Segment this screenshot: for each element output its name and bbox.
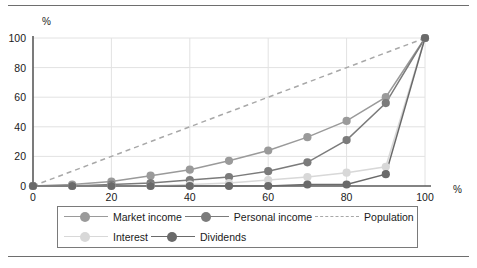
legend-swatch-dividends — [151, 231, 195, 243]
legend-label-personal-income: Personal income — [229, 211, 315, 223]
data-point-dividends — [225, 182, 233, 190]
data-point-dividends — [382, 170, 390, 178]
data-point-interest — [343, 169, 351, 177]
legend-swatch-interest — [64, 231, 108, 243]
legend-row-2: Interest Dividends — [58, 227, 417, 247]
y-tick-label: 20 — [14, 150, 26, 162]
y-tick-label: 40 — [14, 121, 26, 133]
x-tick-label: 0 — [30, 191, 36, 203]
x-tick-label: 40 — [184, 191, 196, 203]
x-tick-label: 100 — [416, 191, 434, 203]
data-point-dividends — [303, 180, 311, 188]
data-point-dividends — [264, 182, 272, 190]
legend-item-interest[interactable]: Interest — [64, 231, 151, 243]
y-tick-label: 80 — [14, 62, 26, 74]
y-axis-unit-label: % — [42, 16, 51, 27]
x-axis-unit-label: % — [453, 184, 462, 195]
data-point-dividends — [29, 182, 37, 190]
legend-item-market-income[interactable]: Market income — [64, 211, 185, 223]
x-tick-label: 20 — [106, 191, 118, 203]
data-point-dividends — [186, 182, 194, 190]
lorenz-curve-figure: 100806040200020406080100 % % Market inco… — [0, 0, 477, 268]
legend-swatch-market-income — [64, 211, 108, 223]
data-point-personal-income — [264, 167, 272, 175]
data-point-dividends — [421, 34, 429, 42]
data-point-dividends — [343, 180, 351, 188]
y-tick-label: 60 — [14, 91, 26, 103]
x-tick-label: 80 — [341, 191, 353, 203]
data-point-personal-income — [303, 158, 311, 166]
data-point-market-income — [225, 157, 233, 165]
data-point-personal-income — [382, 99, 390, 107]
data-point-market-income — [147, 172, 155, 180]
data-point-market-income — [186, 166, 194, 174]
data-point-personal-income — [343, 136, 351, 144]
legend-item-personal-income[interactable]: Personal income — [185, 211, 315, 223]
legend-label-interest: Interest — [108, 231, 151, 243]
legend-swatch-population — [315, 211, 359, 223]
data-point-dividends — [107, 182, 115, 190]
data-point-market-income — [303, 133, 311, 141]
data-point-interest — [382, 163, 390, 171]
legend-label-market-income: Market income — [108, 211, 185, 223]
legend-item-population[interactable]: Population — [315, 211, 417, 223]
y-tick-label: 100 — [8, 32, 26, 44]
chart-legend: Market income Personal income Population — [57, 206, 418, 248]
data-point-dividends — [147, 182, 155, 190]
legend-label-population: Population — [359, 211, 417, 223]
legend-label-dividends: Dividends — [195, 231, 249, 243]
data-point-market-income — [264, 146, 272, 154]
legend-item-dividends[interactable]: Dividends — [151, 231, 249, 243]
x-tick-label: 60 — [262, 191, 274, 203]
data-point-dividends — [68, 182, 76, 190]
legend-row-1: Market income Personal income Population — [58, 207, 417, 227]
y-tick-label: 0 — [20, 180, 26, 192]
data-point-market-income — [343, 117, 351, 125]
data-point-interest — [303, 173, 311, 181]
legend-swatch-personal-income — [185, 211, 229, 223]
